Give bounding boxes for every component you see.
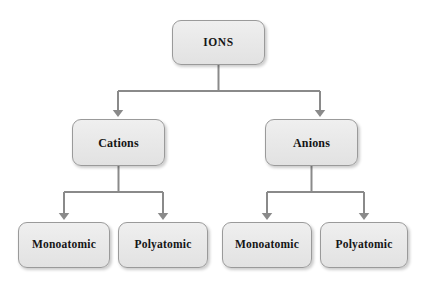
node-anions-label: Anions bbox=[293, 137, 330, 149]
node-cations-label: Cations bbox=[98, 137, 139, 149]
node-anions[interactable]: Anions bbox=[265, 119, 358, 166]
connector-anions-to-children bbox=[267, 166, 364, 214]
node-cations-polyatomic[interactable]: Polyatomic bbox=[118, 222, 208, 268]
node-cations[interactable]: Cations bbox=[72, 119, 165, 166]
connector-cations-to-children bbox=[64, 166, 163, 214]
node-cations-polyatomic-label: Polyatomic bbox=[135, 239, 192, 251]
node-cations-monoatomic-label: Monoatomic bbox=[32, 239, 96, 251]
node-anions-polyatomic[interactable]: Polyatomic bbox=[320, 222, 408, 268]
node-anions-monoatomic[interactable]: Monoatomic bbox=[222, 222, 312, 268]
node-ions-label: IONS bbox=[203, 37, 234, 49]
diagram-canvas: IONS Cations Anions Monoatomic Polyatomi… bbox=[0, 0, 429, 285]
connector-ions-to-level2 bbox=[118, 65, 320, 111]
node-ions[interactable]: IONS bbox=[172, 20, 265, 65]
node-cations-monoatomic[interactable]: Monoatomic bbox=[18, 222, 110, 268]
node-anions-monoatomic-label: Monoatomic bbox=[235, 239, 299, 251]
node-anions-polyatomic-label: Polyatomic bbox=[336, 239, 393, 251]
